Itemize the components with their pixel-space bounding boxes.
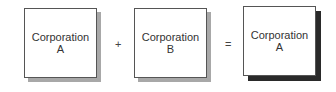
box-label-line2: A: [32, 43, 89, 55]
plus-operator: +: [115, 38, 121, 50]
box-corporation-b: Corporation B: [134, 8, 207, 78]
box-label-line1: Corporation: [142, 31, 199, 43]
box-label-line2: A: [251, 41, 308, 53]
equals-operator: =: [225, 38, 231, 50]
box-corporation-result: Corporation A: [243, 6, 316, 76]
box-label-line1: Corporation: [251, 29, 308, 41]
box-label-line1: Corporation: [32, 31, 89, 43]
box-label-line2: B: [142, 43, 199, 55]
box-corporation-a: Corporation A: [24, 8, 97, 78]
